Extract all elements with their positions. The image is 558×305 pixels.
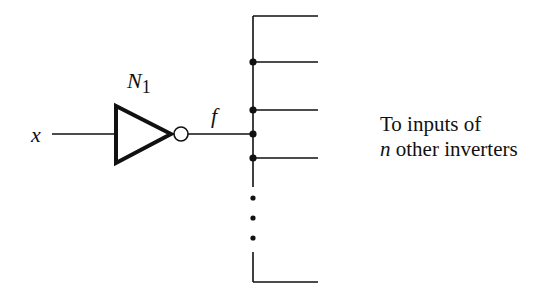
inversion-bubble-icon bbox=[174, 127, 188, 141]
gate-subscript: 1 bbox=[142, 77, 151, 97]
annotation-var: n bbox=[380, 137, 391, 161]
junction-dot-icon bbox=[249, 130, 256, 137]
annotation-line-2: n other inverters bbox=[380, 137, 518, 162]
junction-dot-icon bbox=[249, 58, 256, 65]
fanout-annotation: To inputs of n other inverters bbox=[380, 112, 518, 162]
junction-dot-icon bbox=[249, 106, 256, 113]
gate-name: N bbox=[127, 68, 142, 93]
inverter-triangle-icon bbox=[116, 106, 171, 163]
fanout-branches bbox=[253, 16, 318, 282]
gate-label: N1 bbox=[127, 68, 151, 98]
fanout-diagram: x N1 f To inputs of n other inverters bbox=[0, 0, 558, 305]
annotation-line-1: To inputs of bbox=[380, 112, 518, 137]
vertical-ellipsis-icon bbox=[250, 195, 255, 240]
output-label: f bbox=[211, 103, 217, 129]
junction-dot-icon bbox=[249, 154, 256, 161]
annotation-rest: other inverters bbox=[391, 137, 518, 161]
input-label: x bbox=[31, 122, 41, 148]
